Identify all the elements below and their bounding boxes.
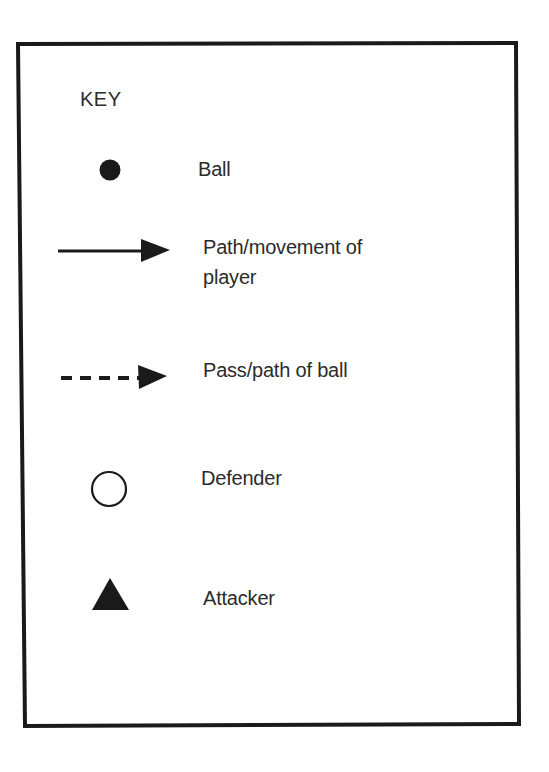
- key-border: [18, 43, 519, 726]
- defender-label: Defender: [201, 465, 282, 491]
- defender-icon: [92, 472, 126, 506]
- attacker-icon: [92, 578, 129, 610]
- dashed-arrow-icon: [61, 365, 167, 389]
- player-path-label-line2: player: [203, 264, 256, 290]
- player-path-label-line1: Path/movement of: [203, 234, 362, 260]
- key-title: KEY: [80, 88, 122, 111]
- attacker-label: Attacker: [203, 585, 275, 611]
- ball-icon: [100, 160, 121, 181]
- ball-label: Ball: [198, 156, 231, 182]
- solid-arrow-icon: [58, 239, 170, 262]
- key-diagram: [0, 0, 549, 772]
- ball-pass-label: Pass/path of ball: [203, 357, 347, 383]
